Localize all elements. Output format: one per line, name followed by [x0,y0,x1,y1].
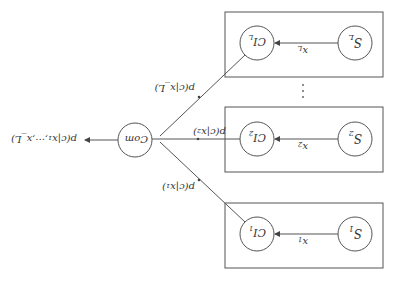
svg-text:p(c|x₂): p(c|x₂) [193,126,226,138]
svg-text:xL: xL [297,44,308,57]
svg-text:p(c|x₁): p(c|x₁) [162,181,195,193]
svg-text:x2: x2 [297,140,308,153]
svg-text:Com: Com [125,134,148,145]
diagram-canvas: S1 x1 CI1 S2 x2 CI2 SL xL [0,0,398,281]
ellipsis [302,84,304,98]
svg-text:p(c|x_L): p(c|x_L) [154,82,195,94]
source-block-2: S2 x2 CI2 [225,107,383,172]
svg-text:x1: x1 [298,235,308,248]
source-block-L: SL xL CIL [225,12,383,77]
output-label: p(c|x₁,···,x_L) [11,133,77,145]
edge-1 [160,142,245,222]
source-block-1: S1 x1 CI1 [225,203,383,268]
